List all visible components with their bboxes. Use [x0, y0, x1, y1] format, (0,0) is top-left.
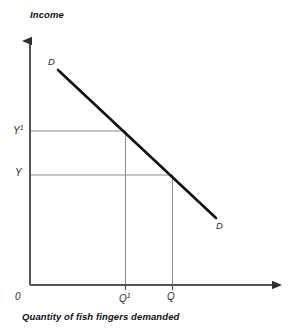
y-tick-label-y-base: Y: [15, 167, 22, 178]
origin-label: 0: [15, 292, 21, 302]
demand-curve-figure: Income Quantity of fish fingers demanded…: [0, 0, 294, 334]
plot-canvas: [0, 0, 294, 334]
x-tick-label-q1: Q1: [119, 292, 131, 304]
curve-label-d-end: D: [216, 221, 223, 231]
y-tick-label-y1-base: Y: [13, 125, 20, 136]
x-tick-label-q: Q: [167, 292, 175, 302]
demand-curve: [58, 70, 216, 218]
y-tick-label-y1: Y1: [13, 124, 24, 136]
y-tick-label-y: Y: [15, 168, 22, 178]
curve-label-d-start: D: [48, 57, 55, 67]
y-tick-label-y1-superscript: 1: [20, 124, 24, 131]
x-tick-label-q1-superscript: 1: [127, 292, 131, 299]
x-tick-label-q1-base: Q: [119, 293, 127, 304]
y-axis-title: Income: [30, 10, 64, 20]
x-tick-label-q-base: Q: [167, 291, 175, 302]
x-axis-title: Quantity of fish fingers demanded: [22, 312, 179, 322]
